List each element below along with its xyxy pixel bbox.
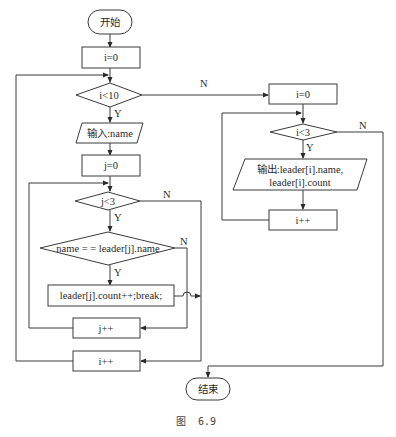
svg-text:name = = leader[j].name: name = = leader[j].name xyxy=(56,243,160,254)
figure-caption: 图 6.9 xyxy=(176,416,216,427)
init-i-box: i=0 xyxy=(82,47,140,68)
inc-i2-box: i++ xyxy=(269,210,337,230)
svg-text:6.9: 6.9 xyxy=(198,416,216,427)
svg-text:i=0: i=0 xyxy=(104,52,118,63)
svg-text:j=0: j=0 xyxy=(103,160,118,171)
cond-i10-diamond: i<10 xyxy=(76,83,142,107)
inc-j-box: j++ xyxy=(73,318,140,338)
label-no: N xyxy=(180,236,188,247)
svg-text:i<10: i<10 xyxy=(99,90,118,101)
count-break-box: leader[j].count++;break; xyxy=(48,285,174,306)
edge-condj-no-to-inci xyxy=(140,201,201,361)
start-terminal: 开始 xyxy=(88,10,132,34)
svg-text:输入:name: 输入:name xyxy=(87,127,133,139)
svg-text:图: 图 xyxy=(176,416,186,427)
label-no: N xyxy=(359,120,367,131)
cond-j3-diamond: j<3 xyxy=(75,192,140,210)
cond-i3-diamond: i<3 xyxy=(270,124,337,140)
input-name-parallelogram: 输入:name xyxy=(76,123,143,143)
label-yes: Y xyxy=(114,108,122,119)
svg-text:输出:leader[i].name,: 输出:leader[i].name, xyxy=(257,163,343,175)
end-terminal: 结束 xyxy=(186,378,230,400)
init-j-box: j=0 xyxy=(82,155,140,176)
label-no: N xyxy=(200,78,208,89)
svg-text:开始: 开始 xyxy=(100,16,121,28)
svg-text:i++: i++ xyxy=(99,356,114,367)
inc-i-box: i++ xyxy=(73,351,140,371)
svg-text:i<3: i<3 xyxy=(296,127,310,138)
output-parallelogram: 输出:leader[i].name, leader[i].count xyxy=(233,159,367,190)
svg-text:结束: 结束 xyxy=(198,383,219,395)
label-yes: Y xyxy=(306,142,314,153)
svg-text:i++: i++ xyxy=(296,215,311,226)
svg-text:leader[i].count: leader[i].count xyxy=(269,177,331,188)
cond-name-match-diamond: name = = leader[j].name xyxy=(40,232,175,265)
flowchart: Y Y Y Y N N N N 开始 i=0 i<10 输入:name j=0 … xyxy=(0,0,396,437)
svg-text:i=0: i=0 xyxy=(296,89,310,100)
init-i2-box: i=0 xyxy=(269,84,337,104)
svg-text:j++: j++ xyxy=(98,323,114,334)
label-no: N xyxy=(163,189,171,200)
svg-text:j<3: j<3 xyxy=(100,196,115,207)
label-yes: Y xyxy=(114,212,122,223)
svg-text:leader[j].count++;break;: leader[j].count++;break; xyxy=(60,290,163,301)
label-yes: Y xyxy=(114,267,122,278)
